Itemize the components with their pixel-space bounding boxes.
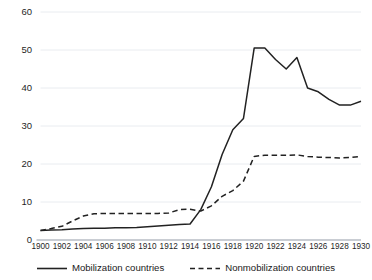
y-tick-label-60: 60 — [6, 7, 32, 17]
y-tick-label-40: 40 — [6, 83, 32, 93]
legend-item-nonmobilization: Nonmobilization countries — [190, 262, 335, 274]
x-tick-label-1914: 1914 — [181, 241, 199, 252]
x-tick-label-1928: 1928 — [331, 241, 349, 252]
line-chart: 6050403020100 19001902190419061908191019… — [0, 0, 372, 280]
x-tick-label-1930: 1930 — [352, 241, 370, 252]
x-tick-label-1916: 1916 — [202, 241, 220, 252]
y-tick-label-50: 50 — [6, 45, 32, 55]
series-line-2 — [41, 155, 362, 231]
x-tick-label-1920: 1920 — [245, 241, 263, 252]
y-tick-label-30: 30 — [6, 121, 32, 131]
gridlines — [41, 12, 362, 202]
chart-legend: Mobilization countries Nonmobilization c… — [0, 258, 372, 278]
x-tick-label-1908: 1908 — [117, 241, 135, 252]
plot-area — [0, 0, 372, 252]
x-tick-label-1918: 1918 — [224, 241, 242, 252]
legend-label-mobilization: Mobilization countries — [72, 262, 164, 274]
plot-svg — [0, 0, 372, 252]
x-tick-label-1904: 1904 — [74, 241, 92, 252]
solid-line-swatch — [37, 264, 67, 273]
y-tick-label-10: 10 — [6, 197, 32, 207]
x-tick-label-1926: 1926 — [309, 241, 327, 252]
y-axis: 6050403020100 — [0, 0, 32, 252]
x-tick-label-1902: 1902 — [53, 241, 71, 252]
legend-item-mobilization: Mobilization countries — [37, 262, 164, 274]
x-tick-label-1912: 1912 — [160, 241, 178, 252]
legend-label-nonmobilization: Nonmobilization countries — [225, 262, 335, 274]
x-axis: 1900190219041906190819101912191419161918… — [0, 241, 372, 257]
dashed-line-swatch — [190, 264, 220, 273]
x-tick-label-1900: 1900 — [31, 241, 49, 252]
x-tick-label-1910: 1910 — [138, 241, 156, 252]
y-tick-label-20: 20 — [6, 159, 32, 169]
x-tick-label-1922: 1922 — [266, 241, 284, 252]
series-paths — [41, 48, 362, 230]
x-tick-label-1924: 1924 — [288, 241, 306, 252]
x-tick-label-1906: 1906 — [95, 241, 113, 252]
series-line-1 — [41, 48, 362, 230]
